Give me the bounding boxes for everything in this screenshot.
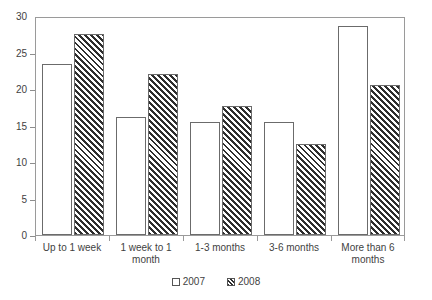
x-category-label-line: Up to 1 week	[35, 242, 109, 254]
x-tick-mark	[257, 236, 258, 241]
x-tick-mark	[183, 236, 184, 241]
bar-2007-4	[338, 26, 368, 235]
legend-label-2007: 2007	[183, 277, 205, 287]
x-category-label-2: 1-3 months	[183, 242, 257, 254]
x-category-label-line: 1-3 months	[183, 242, 257, 254]
bar-2007-2	[190, 122, 220, 235]
y-tick-label: 0	[21, 231, 27, 241]
bar-2008-4	[370, 85, 400, 235]
plot-area	[35, 17, 405, 236]
x-category-label-3: 3-6 months	[257, 242, 331, 254]
y-tick-label: 5	[21, 195, 27, 205]
bar-2007-0	[42, 64, 72, 235]
x-category-label-line: 3-6 months	[257, 242, 331, 254]
x-category-label-line: months	[331, 254, 405, 266]
legend-label-2008: 2008	[238, 277, 260, 287]
legend-swatch-icon-2008	[227, 278, 235, 286]
x-tick-mark	[109, 236, 110, 241]
bar-2008-1	[148, 74, 178, 235]
x-category-label-line: More than 6	[331, 242, 405, 254]
legend-entry-2007: 2007	[172, 277, 205, 287]
x-category-label-1: 1 week to 1month	[109, 242, 183, 266]
x-axis-ticks	[35, 236, 405, 241]
bar-chart-figure: 051015202530 Up to 1 week1 week to 1mont…	[0, 0, 432, 300]
bar-2008-3	[296, 144, 326, 235]
x-category-label-0: Up to 1 week	[35, 242, 109, 254]
y-tick-label: 10	[16, 158, 27, 168]
bars-layer	[36, 18, 404, 235]
y-tick-label: 15	[16, 122, 27, 132]
x-axis-labels: Up to 1 week1 week to 1month1-3 months3-…	[35, 242, 405, 276]
legend-entry-2008: 2008	[227, 277, 260, 287]
bar-2008-0	[74, 34, 104, 235]
y-tick-label: 25	[16, 49, 27, 59]
y-axis: 051015202530	[0, 0, 35, 260]
y-tick-label: 20	[16, 85, 27, 95]
bar-2007-1	[116, 117, 146, 235]
x-tick-mark	[331, 236, 332, 241]
y-tick-label: 30	[16, 12, 27, 22]
x-category-label-line: month	[109, 254, 183, 266]
chart-legend: 2007 2008	[0, 272, 432, 292]
bar-2008-2	[222, 106, 252, 235]
x-tick-mark	[404, 236, 405, 241]
x-category-label-4: More than 6months	[331, 242, 405, 266]
legend-swatch-icon-2007	[172, 278, 180, 286]
x-category-label-line: 1 week to 1	[109, 242, 183, 254]
x-tick-mark	[35, 236, 36, 241]
bar-2007-3	[264, 122, 294, 235]
